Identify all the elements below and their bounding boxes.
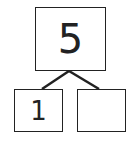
part-value-left: 1 bbox=[30, 96, 47, 126]
part-box-right[interactable] bbox=[77, 89, 126, 132]
part-box-left: 1 bbox=[14, 89, 63, 132]
whole-value: 5 bbox=[58, 16, 83, 62]
whole-box: 5 bbox=[35, 7, 106, 71]
